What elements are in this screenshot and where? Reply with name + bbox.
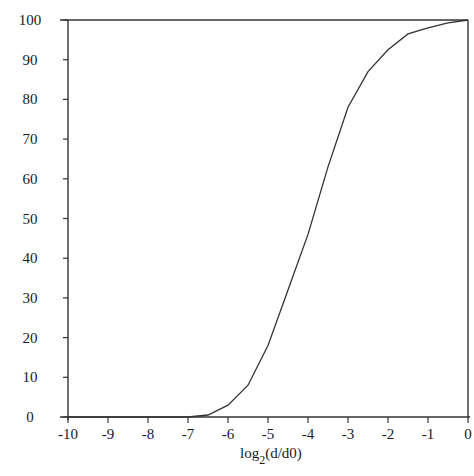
x-tick-label: 0 — [464, 426, 472, 442]
cumulative-line-chart: 0102030405060708090100 -10-9-8-7-6-5-4-3… — [0, 0, 474, 476]
data-series-line — [68, 20, 468, 417]
y-tick-label: 90 — [23, 52, 38, 68]
y-tick-label: 20 — [23, 330, 38, 346]
x-tick-label: -3 — [342, 426, 355, 442]
y-tick-label: 40 — [23, 250, 38, 266]
y-tick-label: 10 — [23, 369, 38, 385]
x-tick-label: -7 — [182, 426, 195, 442]
x-tick-label: -10 — [58, 426, 78, 442]
y-axis: 0102030405060708090100 — [19, 12, 68, 425]
x-axis-title-rest: (d/d0) — [265, 445, 302, 462]
y-tick-label: 0 — [26, 409, 34, 425]
plot-frame — [60, 20, 470, 420]
x-tick-label: -4 — [302, 426, 315, 442]
x-tick-label: -6 — [222, 426, 235, 442]
x-tick-label: -9 — [102, 426, 115, 442]
x-tick-label: -1 — [422, 426, 435, 442]
y-tick-label: 50 — [23, 211, 38, 227]
x-axis-title-base: log — [240, 445, 260, 461]
x-tick-label: -5 — [262, 426, 275, 442]
x-axis: -10-9-8-7-6-5-4-3-2-10 — [58, 417, 472, 442]
y-tick-label: 70 — [23, 131, 38, 147]
x-tick-label: -2 — [382, 426, 395, 442]
y-tick-label: 30 — [23, 290, 38, 306]
y-tick-label: 100 — [19, 12, 42, 28]
x-tick-label: -8 — [142, 426, 155, 442]
x-axis-title: log2(d/d0) — [240, 445, 302, 467]
y-tick-label: 60 — [23, 171, 38, 187]
y-tick-label: 80 — [23, 91, 38, 107]
